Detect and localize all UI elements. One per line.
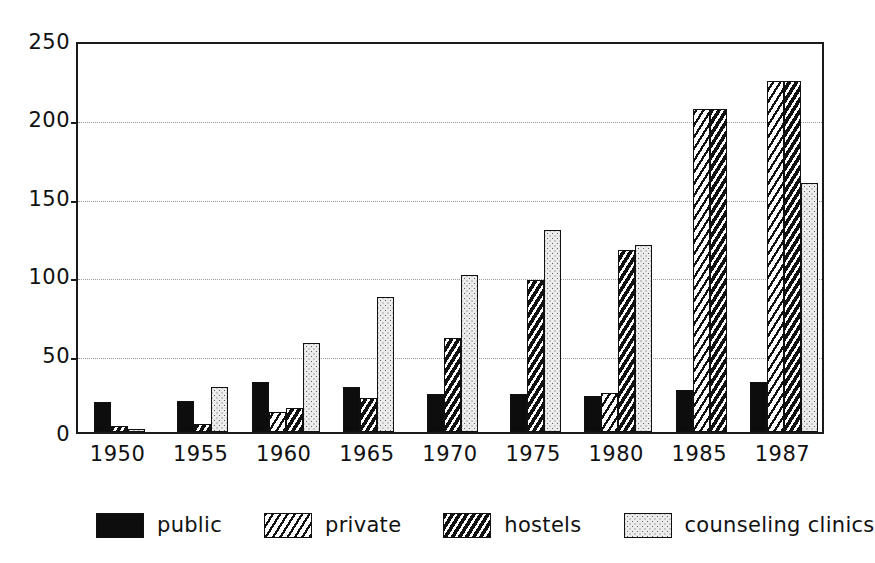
y-tick-label-50: 50 <box>12 345 70 366</box>
x-tick-label-1980: 1980 <box>588 442 643 466</box>
y-axis: 050100150200250 <box>0 0 70 563</box>
bar-group-1955 <box>177 44 228 432</box>
bar-group-bars <box>750 44 818 432</box>
legend-label: public <box>157 513 222 537</box>
bar-group-1975 <box>510 44 561 432</box>
bar-private-1980 <box>601 393 618 432</box>
bar-counseling-clinics-1960 <box>303 343 320 432</box>
bar-group-1980 <box>584 44 652 432</box>
bar-counseling-clinics-1950 <box>128 429 145 432</box>
bar-hostels-1970 <box>444 338 461 432</box>
x-tick-label-1950: 1950 <box>90 442 145 466</box>
legend-label: counseling clinics <box>685 513 875 537</box>
bar-public-1955 <box>177 401 194 432</box>
x-tick-label-1987: 1987 <box>755 442 810 466</box>
x-tick-label-1965: 1965 <box>339 442 394 466</box>
legend-swatch-hostels-icon <box>443 513 491 538</box>
bar-group-bars <box>252 44 320 432</box>
legend-swatch-private-icon <box>264 513 312 538</box>
plot-area <box>76 42 824 434</box>
y-tick-mark-100 <box>71 279 78 281</box>
bar-group-bars <box>584 44 652 432</box>
legend-item-private[interactable]: private <box>264 513 401 538</box>
bar-group-bars <box>676 44 727 432</box>
bar-hostels-1985 <box>710 109 727 432</box>
plot-inner <box>78 44 822 432</box>
y-tick-mark-150 <box>71 201 78 203</box>
bar-group-1965 <box>343 44 394 432</box>
bar-hostels-1965 <box>360 398 377 432</box>
bar-hostels-1975 <box>527 280 544 432</box>
bar-counseling-clinics-1970 <box>461 275 478 432</box>
bar-public-1975 <box>510 394 527 432</box>
bar-public-1960 <box>252 382 269 432</box>
bar-group-1950 <box>94 44 145 432</box>
y-tick-mark-200 <box>71 122 78 124</box>
bar-private-1985 <box>693 109 710 432</box>
bar-hostels-1955 <box>194 424 211 432</box>
x-tick-label-1960: 1960 <box>256 442 311 466</box>
legend-label: hostels <box>504 513 581 537</box>
bar-hostels-1980 <box>618 250 635 432</box>
bar-hostels-1950 <box>111 426 128 432</box>
bar-counseling-clinics-1975 <box>544 230 561 432</box>
bar-group-1970 <box>427 44 478 432</box>
bar-public-1950 <box>94 402 111 432</box>
chart-legend: publicprivatehostelscounseling clinics <box>96 505 796 545</box>
y-tick-label-200: 200 <box>12 110 70 131</box>
legend-item-public[interactable]: public <box>96 513 222 538</box>
legend-swatch-counseling-clinics-icon <box>624 513 672 538</box>
x-tick-label-1985: 1985 <box>672 442 727 466</box>
bar-group-1987 <box>750 44 818 432</box>
x-tick-label-1970: 1970 <box>422 442 477 466</box>
bar-hostels-1960 <box>286 408 303 432</box>
y-tick-label-150: 150 <box>12 188 70 209</box>
bar-private-1960 <box>269 412 286 432</box>
y-tick-label-100: 100 <box>12 267 70 288</box>
bar-private-1987 <box>767 81 784 432</box>
x-tick-label-1955: 1955 <box>173 442 228 466</box>
y-tick-label-0: 0 <box>12 424 70 445</box>
bar-group-bars <box>343 44 394 432</box>
bar-public-1987 <box>750 382 767 432</box>
bar-public-1970 <box>427 394 444 432</box>
legend-swatch-public-icon <box>96 513 144 538</box>
bar-counseling-clinics-1965 <box>377 297 394 432</box>
bar-public-1980 <box>584 396 601 432</box>
bar-hostels-1987 <box>784 81 801 432</box>
legend-item-counseling-clinics[interactable]: counseling clinics <box>624 513 875 538</box>
bar-counseling-clinics-1980 <box>635 245 652 432</box>
legend-item-hostels[interactable]: hostels <box>443 513 581 538</box>
y-tick-label-250: 250 <box>12 32 70 53</box>
bar-group-bars <box>510 44 561 432</box>
bar-counseling-clinics-1955 <box>211 387 228 432</box>
legend-label: private <box>325 513 401 537</box>
bar-counseling-clinics-1987 <box>801 183 818 432</box>
bar-group-bars <box>427 44 478 432</box>
bar-group-1960 <box>252 44 320 432</box>
bar-public-1985 <box>676 390 693 432</box>
bar-group-bars <box>177 44 228 432</box>
bar-public-1965 <box>343 387 360 432</box>
bar-group-bars <box>94 44 145 432</box>
x-tick-label-1975: 1975 <box>505 442 560 466</box>
y-tick-mark-50 <box>71 358 78 360</box>
bar-group-1985 <box>676 44 727 432</box>
